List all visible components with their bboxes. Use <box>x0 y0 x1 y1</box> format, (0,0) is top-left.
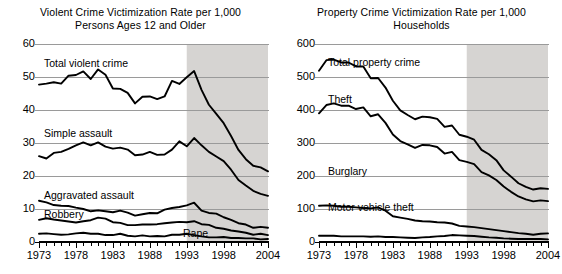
y-tick-label-100: 100 <box>281 203 315 214</box>
figure-root: Violent Crime Victimization Rate per 1,0… <box>0 0 562 274</box>
series-label-simple-assault: Simple assault <box>44 128 112 139</box>
y-tick-label-40: 40 <box>0 104 35 115</box>
y-tick-label-400: 400 <box>281 104 315 115</box>
y-tick-label-20: 20 <box>0 170 35 181</box>
series-label-theft: Theft <box>328 94 352 105</box>
chart-svg-property-crime <box>281 0 562 274</box>
x-tick-label-1973: 1973 <box>299 250 339 261</box>
series-label-burglary: Burglary <box>328 166 367 177</box>
plot-area-violent-crime: 0102030405060197319781983198819931998200… <box>0 0 281 274</box>
series-label-rape: Rape <box>183 228 208 239</box>
x-tick-label-1998: 1998 <box>204 250 244 261</box>
chart-panel-property-crime: Property Crime Victimization Rate per 1,… <box>281 0 562 274</box>
series-label-motor-vehicle-theft: Motor vehicle theft <box>328 202 414 213</box>
series-label-total-violent-crime: Total violent crime <box>44 58 128 69</box>
x-tick-label-1983: 1983 <box>93 250 133 261</box>
x-tick-label-1978: 1978 <box>336 250 376 261</box>
chart-panel-violent-crime: Violent Crime Victimization Rate per 1,0… <box>0 0 281 274</box>
y-tick-label-50: 50 <box>0 71 35 82</box>
x-tick-label-1983: 1983 <box>373 250 413 261</box>
x-tick-label-1978: 1978 <box>56 250 96 261</box>
x-tick-label-1973: 1973 <box>19 250 59 261</box>
y-tick-label-0: 0 <box>281 236 315 247</box>
y-tick-label-200: 200 <box>281 170 315 181</box>
series-label-total-property-crime: Total property crime <box>328 57 420 68</box>
y-tick-label-10: 10 <box>0 203 35 214</box>
x-tick-label-2004: 2004 <box>528 250 562 261</box>
x-tick-label-1988: 1988 <box>130 250 170 261</box>
y-tick-label-60: 60 <box>0 38 35 49</box>
y-tick-label-30: 30 <box>0 137 35 148</box>
x-tick-label-1988: 1988 <box>410 250 450 261</box>
y-tick-label-500: 500 <box>281 71 315 82</box>
series-label-robbery: Robbery <box>44 209 84 220</box>
y-tick-label-300: 300 <box>281 137 315 148</box>
y-tick-label-0: 0 <box>0 236 35 247</box>
x-tick-label-1993: 1993 <box>167 250 207 261</box>
y-tick-label-600: 600 <box>281 38 315 49</box>
x-tick-label-1998: 1998 <box>484 250 524 261</box>
plot-area-property-crime: 0100200300400500600197319781983198819931… <box>281 0 562 274</box>
series-label-aggravated-assault: Aggravated assault <box>44 190 134 201</box>
chart-svg-violent-crime <box>0 0 281 274</box>
x-tick-label-1993: 1993 <box>447 250 487 261</box>
